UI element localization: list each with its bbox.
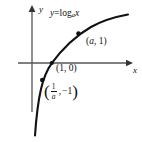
- paren-close: ): [103, 36, 106, 46]
- log-function-figure: y x y=logax (a, 1) (1, 0) ( 1 a , −1 ): [0, 0, 142, 142]
- point-one-comma: ,: [64, 63, 66, 73]
- x-axis-label: x: [133, 66, 137, 75]
- function-equation-label: y=logax: [50, 9, 79, 19]
- equation-operator: log: [60, 8, 72, 18]
- fraction-denominator: a: [52, 92, 56, 100]
- paren-close: ): [73, 63, 76, 73]
- point-label-1-0: (1, 0): [56, 64, 77, 74]
- paren-close: ): [72, 83, 78, 100]
- point-label-a-1: (a, 1): [86, 37, 107, 47]
- fraction-numerator: 1: [52, 83, 56, 91]
- point-frac-y-value: −1: [62, 87, 72, 97]
- y-axis: [29, 5, 36, 112]
- log-curve: [35, 15, 128, 136]
- y-axis-label: y: [39, 5, 43, 14]
- marker-point-one: [50, 61, 54, 65]
- point-a-comma: ,: [94, 36, 96, 46]
- point-label-inverse-a: ( 1 a , −1 ): [44, 83, 78, 100]
- equation-argument: x: [75, 8, 79, 18]
- paren-open: (: [44, 83, 50, 100]
- marker-point-a: [76, 31, 81, 36]
- point-frac-comma: ,: [59, 87, 61, 97]
- fraction-one-over-a: 1 a: [51, 83, 57, 100]
